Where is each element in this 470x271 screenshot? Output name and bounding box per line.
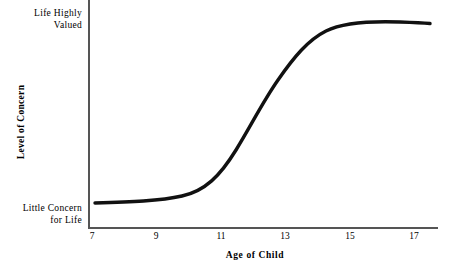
data-curve-line — [95, 22, 430, 203]
sigmoid-chart: Life Highly Valued Little Concern for Li… — [0, 0, 470, 271]
curve-plot-area — [0, 0, 470, 271]
